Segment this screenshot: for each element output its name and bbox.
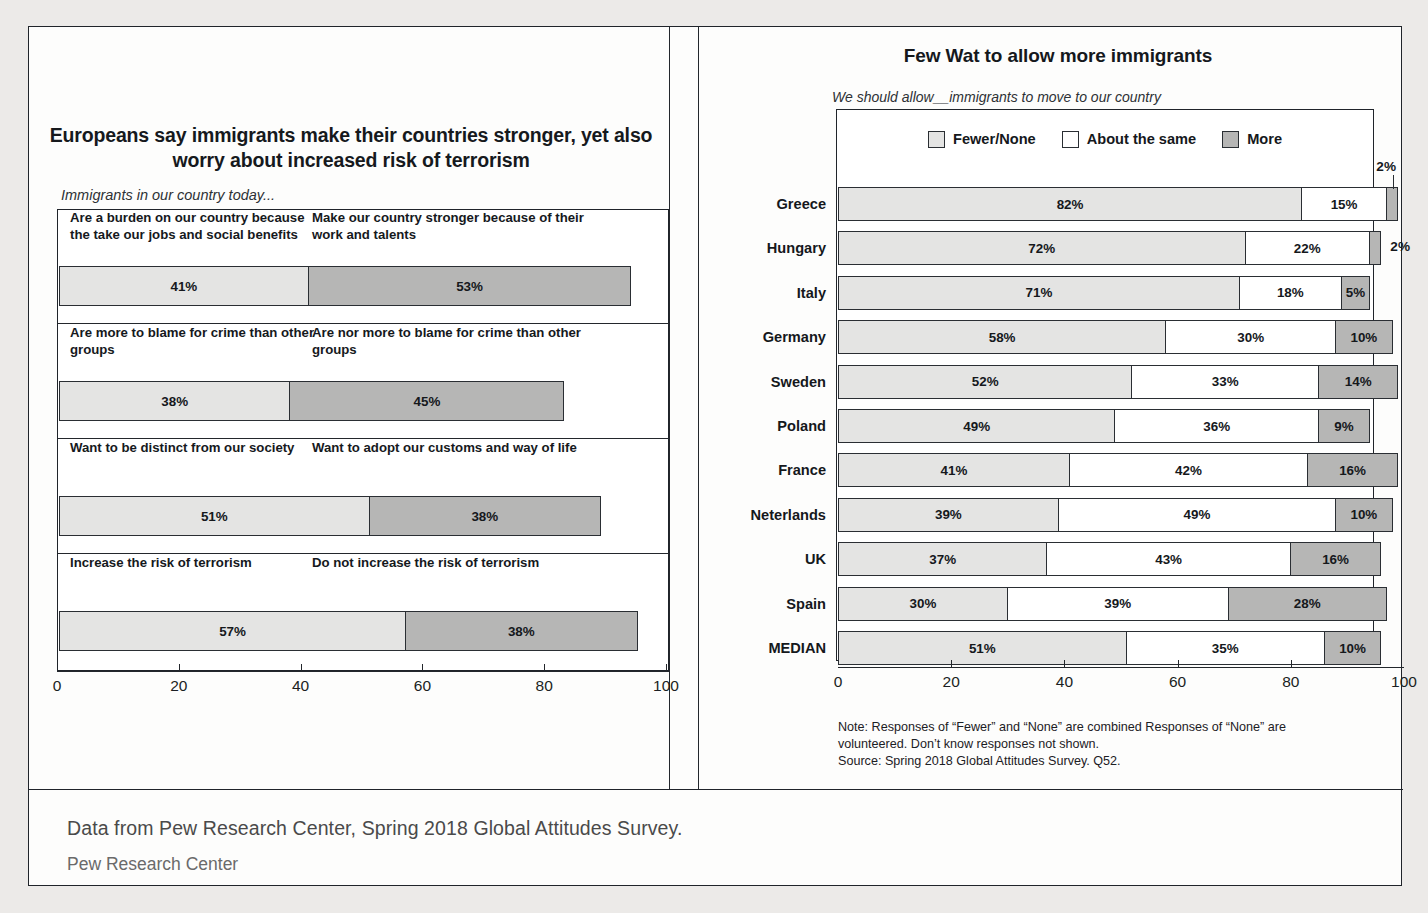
country-label: Italy bbox=[797, 276, 826, 310]
country-label: France bbox=[778, 453, 826, 487]
left-axis-tick-label: 40 bbox=[292, 677, 309, 695]
bar-segment-about-the-same: 42% bbox=[1070, 453, 1308, 487]
bar-segment-more: 28% bbox=[1229, 587, 1387, 621]
country-label: Germany bbox=[763, 320, 826, 354]
left-chart-title: Europeans say immigrants make their coun… bbox=[47, 123, 655, 173]
right-chart-row: Germany58%30%10% bbox=[29, 320, 1403, 354]
bar-segment-more bbox=[1387, 187, 1398, 221]
bar-segment-about-the-same: 15% bbox=[1302, 187, 1387, 221]
bar-segment-about-the-same: 49% bbox=[1059, 498, 1336, 532]
bar-segment-more: 10% bbox=[1336, 320, 1393, 354]
right-axis-tick bbox=[1178, 660, 1179, 667]
footer-source-line: Data from Pew Research Center, Spring 20… bbox=[67, 817, 682, 840]
bar-segment-about-the-same: 33% bbox=[1132, 365, 1319, 399]
country-label: MEDIAN bbox=[768, 631, 826, 665]
right-chart-subtitle: We should allow__immigrants to move to o… bbox=[832, 89, 1161, 105]
footer-org-line: Pew Research Center bbox=[67, 854, 682, 875]
stacked-bar: 30%39%28% bbox=[838, 587, 1387, 621]
right-chart-row: MEDIAN51%35%10% bbox=[29, 631, 1403, 665]
bar-segment-fewer-none: 30% bbox=[838, 587, 1008, 621]
legend-swatch-same-icon bbox=[1062, 131, 1079, 148]
legend-swatch-more-icon bbox=[1222, 131, 1239, 148]
bar-segment-fewer-none: 71% bbox=[838, 276, 1240, 310]
right-chart-row: Sweden52%33%14% bbox=[29, 365, 1403, 399]
left-axis-tick-label: 100 bbox=[653, 677, 679, 695]
bar-segment-fewer-none: 41% bbox=[838, 453, 1070, 487]
right-chart-row: Hungary72%22%2% bbox=[29, 231, 1403, 265]
stacked-bar: 71%18%5% bbox=[838, 276, 1370, 310]
right-axis-tick bbox=[1064, 660, 1065, 667]
stacked-bar: 41%42%16% bbox=[838, 453, 1398, 487]
bar-segment-fewer-none: 72% bbox=[838, 231, 1246, 265]
legend-item-same[interactable]: About the same bbox=[1062, 131, 1196, 148]
left-axis-tick bbox=[544, 664, 545, 671]
right-axis-line bbox=[838, 667, 1404, 668]
bar-segment-fewer-none: 52% bbox=[838, 365, 1132, 399]
leader-line bbox=[1393, 175, 1394, 189]
right-axis-tick-label: 20 bbox=[943, 673, 960, 691]
bar-segment-fewer-none: 58% bbox=[838, 320, 1166, 354]
legend-item-more[interactable]: More bbox=[1222, 131, 1282, 148]
legend-label: More bbox=[1247, 131, 1282, 147]
bar-segment-more bbox=[1370, 231, 1381, 265]
bar-segment-about-the-same: 18% bbox=[1240, 276, 1342, 310]
legend-swatch-few-icon bbox=[928, 131, 945, 148]
bar-segment-about-the-same: 36% bbox=[1115, 409, 1319, 443]
left-chart-panel: Europeans say immigrants make their coun… bbox=[29, 27, 669, 789]
right-chart-row: Poland49%36%9% bbox=[29, 409, 1403, 443]
stacked-bar: 51%35%10% bbox=[838, 631, 1381, 665]
bar-segment-more: 5% bbox=[1342, 276, 1370, 310]
stacked-bar: 58%30%10% bbox=[838, 320, 1393, 354]
right-chart-row: Greece82%15%2% bbox=[29, 187, 1403, 221]
right-axis-tick-label: 0 bbox=[834, 673, 843, 691]
bar-segment-fewer-none: 82% bbox=[838, 187, 1302, 221]
country-label: Hungary bbox=[767, 231, 826, 265]
country-label: Spain bbox=[786, 587, 826, 621]
bar-segment-about-the-same: 22% bbox=[1246, 231, 1371, 265]
bar-segment-about-the-same: 39% bbox=[1008, 587, 1229, 621]
right-chart-row: Spain30%39%28% bbox=[29, 587, 1403, 621]
more-value-label-outside: 2% bbox=[1390, 239, 1410, 254]
left-axis-tick-label: 20 bbox=[170, 677, 187, 695]
footer-divider bbox=[29, 789, 1403, 790]
left-axis-tick-label: 0 bbox=[53, 677, 62, 695]
bar-segment-fewer-none: 49% bbox=[838, 409, 1115, 443]
country-label: Greece bbox=[777, 187, 827, 221]
bar-segment-fewer-none: 39% bbox=[838, 498, 1059, 532]
bar-segment-about-the-same: 30% bbox=[1166, 320, 1336, 354]
left-axis-tick-label: 80 bbox=[536, 677, 553, 695]
legend-label: Fewer/None bbox=[953, 131, 1036, 147]
right-chart-row: Neterlands39%49%10% bbox=[29, 498, 1403, 532]
right-axis-tick bbox=[1291, 660, 1292, 667]
left-axis-tick bbox=[301, 664, 302, 671]
bar-segment-fewer-none: 51% bbox=[838, 631, 1127, 665]
left-axis-tick bbox=[666, 664, 667, 671]
stacked-bar: 49%36%9% bbox=[838, 409, 1370, 443]
legend-item-few[interactable]: Fewer/None bbox=[928, 131, 1036, 148]
right-chart-row: France41%42%16% bbox=[29, 453, 1403, 487]
right-axis-tick bbox=[951, 660, 952, 667]
right-chart-legend: Fewer/NoneAbout the sameMore bbox=[836, 115, 1374, 163]
bar-segment-more: 9% bbox=[1319, 409, 1370, 443]
bar-segment-fewer-none: 37% bbox=[838, 542, 1047, 576]
note-line-2: volunteered. Don’t know responses not sh… bbox=[838, 736, 1338, 753]
stacked-bar: 72%22% bbox=[838, 231, 1381, 265]
more-value-label-outside: 2% bbox=[1376, 159, 1396, 174]
country-label: Sweden bbox=[771, 365, 826, 399]
right-chart-title: Few Wat to allow more immigrants bbox=[728, 45, 1388, 67]
left-axis-tick-label: 60 bbox=[414, 677, 431, 695]
right-axis-tick-label: 80 bbox=[1282, 673, 1299, 691]
note-line-3: Source: Spring 2018 Global Attitudes Sur… bbox=[838, 753, 1338, 770]
right-chart-note: Note: Responses of “Fewer” and “None” ar… bbox=[838, 719, 1338, 770]
left-axis-tick bbox=[179, 664, 180, 671]
footer: Data from Pew Research Center, Spring 20… bbox=[67, 817, 682, 875]
bar-segment-about-the-same: 43% bbox=[1047, 542, 1290, 576]
charts-area: Europeans say immigrants make their coun… bbox=[29, 27, 1401, 789]
bar-segment-more: 16% bbox=[1291, 542, 1382, 576]
bar-segment-more: 14% bbox=[1319, 365, 1398, 399]
country-label: Poland bbox=[777, 409, 826, 443]
stacked-bar: 37%43%16% bbox=[838, 542, 1381, 576]
stacked-bar: 52%33%14% bbox=[838, 365, 1398, 399]
clipped-heading-text bbox=[0, 0, 1428, 8]
note-line-1: Note: Responses of “Fewer” and “None” ar… bbox=[838, 719, 1338, 736]
